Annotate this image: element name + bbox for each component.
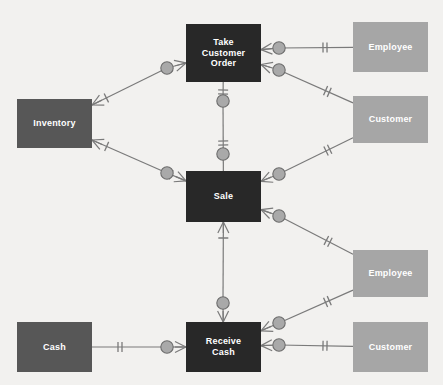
relationship-node-r_order_emp	[273, 42, 285, 54]
relationship-node-r_cash_receive	[161, 341, 173, 353]
relationship-node-r_inv_order	[161, 62, 173, 74]
relationship-node-r_order_cust	[273, 64, 285, 76]
entity-label-take_customer_order: Take Customer Order	[188, 37, 259, 70]
entity-label-customer_top: Customer	[369, 114, 413, 125]
relationship-node-r_sale_cust	[273, 168, 285, 180]
relationship-node-r_sale_duality	[217, 148, 229, 160]
entity-box-take_customer_order[interactable]: Take Customer Order	[186, 24, 261, 82]
entity-box-sale[interactable]: Sale	[186, 171, 261, 222]
entity-box-inventory[interactable]: Inventory	[17, 99, 92, 148]
entity-label-receive_cash: Receive Cash	[206, 336, 241, 358]
entity-box-receive_cash[interactable]: Receive Cash	[186, 322, 261, 372]
relationship-node-r_recv_emp	[273, 317, 285, 329]
entity-box-customer_bottom[interactable]: Customer	[353, 322, 428, 372]
relationship-node-r_sale_emp	[273, 210, 285, 222]
entity-label-cash: Cash	[43, 342, 66, 353]
entity-box-employee_top[interactable]: Employee	[353, 22, 428, 72]
entity-box-cash[interactable]: Cash	[17, 322, 92, 372]
entity-label-employee_top: Employee	[368, 42, 412, 53]
entity-box-customer_top[interactable]: Customer	[353, 96, 428, 143]
rea-diagram-canvas: Take Customer OrderEmployeeInventoryCust…	[0, 0, 443, 385]
relationship-node-r_inv_sale	[161, 167, 173, 179]
entity-label-employee_bottom: Employee	[368, 268, 412, 279]
relationship-node-r_order_duality	[217, 95, 229, 107]
relationship-node-r_recv_cust	[273, 339, 285, 351]
entity-label-customer_bottom: Customer	[369, 342, 413, 353]
entity-label-inventory: Inventory	[33, 118, 75, 129]
entity-label-sale: Sale	[214, 191, 233, 202]
entity-box-employee_bottom[interactable]: Employee	[353, 250, 428, 297]
relationship-node-r_sale_cash	[217, 297, 229, 309]
